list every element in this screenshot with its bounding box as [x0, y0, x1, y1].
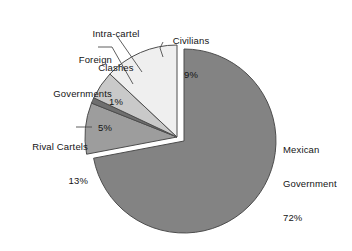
slice-label-rival-cartels-value: 13%	[4, 175, 88, 186]
slice-label-intra-cartel-clashes-line2: Clashes	[78, 62, 154, 73]
slice-label-mexican-government-value: 72%	[283, 212, 351, 223]
slice-label-mexican-government-line1: Mexican	[283, 144, 351, 155]
slice-label-civilians-value: 9%	[158, 69, 224, 80]
slice-label-intra-cartel-clashes: Intra-cartel Clashes 1%	[78, 5, 154, 130]
pie-chart: Rival Cartels 13% Foreign Governments 5%…	[0, 0, 352, 251]
slice-label-mexican-government-line2: Government	[283, 178, 351, 189]
slice-label-civilians-line1: Civilians	[158, 35, 224, 46]
slice-label-mexican-government: Mexican Government 72%	[283, 121, 351, 246]
slice-label-intra-cartel-clashes-line1: Intra-cartel	[78, 28, 154, 39]
slice-label-civilians: Civilians 9%	[158, 12, 224, 103]
slice-label-intra-cartel-clashes-value: 1%	[78, 96, 154, 107]
